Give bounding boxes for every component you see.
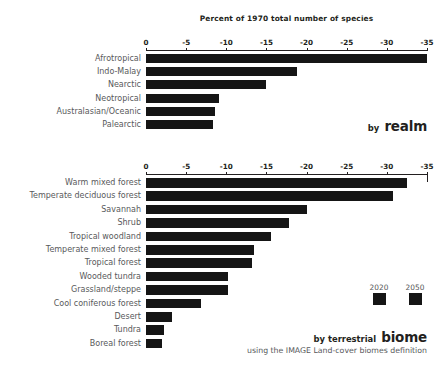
bar-row[interactable]: Neotropical xyxy=(0,92,441,105)
axis-tick-mark xyxy=(186,48,187,51)
bar[interactable] xyxy=(146,325,164,335)
bar-row-label: Desert xyxy=(0,310,141,323)
axis-tick-label: -15 xyxy=(260,162,273,171)
axis-tick-label: -15 xyxy=(260,38,273,47)
bar-row-label: Shrub xyxy=(0,216,141,229)
axis-tick-mark xyxy=(266,172,267,175)
bar[interactable] xyxy=(146,54,427,63)
axis-tick-mark xyxy=(307,172,308,175)
biome-x-axis: 0-5-10-15-20-25-30-35 xyxy=(146,162,427,174)
bar[interactable] xyxy=(146,312,172,322)
realm-x-axis: 0-5-10-15-20-25-30-35 xyxy=(146,38,427,50)
bar-row-label: Palearctic xyxy=(0,118,141,131)
biome-caption-prefix: by terrestrial xyxy=(314,334,377,344)
bar-row[interactable]: Afrotropical xyxy=(0,52,441,65)
axis-tick-label: -20 xyxy=(300,38,313,47)
axis-tick-label: -5 xyxy=(182,162,190,171)
bar[interactable] xyxy=(146,80,266,89)
legend-label: 2020 xyxy=(366,283,392,292)
axis-tick-label: -10 xyxy=(220,38,233,47)
bar-row-label: Temperate deciduous forest xyxy=(0,189,141,202)
axis-tick-label: -20 xyxy=(300,162,313,171)
bar-row-label: Afrotropical xyxy=(0,52,141,65)
axis-tick-label: -35 xyxy=(421,162,434,171)
biome-legend: 20202050 xyxy=(366,283,436,307)
realm-caption: by realm xyxy=(368,116,427,135)
legend-swatch xyxy=(409,293,422,305)
bar[interactable] xyxy=(146,339,162,349)
bar[interactable] xyxy=(146,205,307,215)
bar-row-label: Wooded tundra xyxy=(0,270,141,283)
bar[interactable] xyxy=(146,232,271,242)
axis-tick-label: -25 xyxy=(340,38,353,47)
biome-caption-note: using the IMAGE Land-cover biomes defini… xyxy=(247,346,427,355)
biome-caption: by terrestrial biome xyxy=(314,327,427,346)
bar-row-label: Indo-Malay xyxy=(0,65,141,78)
axis-tick-mark xyxy=(186,172,187,175)
axis-tick-label: -25 xyxy=(340,162,353,171)
bar-row[interactable]: Shrub xyxy=(0,216,441,229)
axis-tick-label: -35 xyxy=(421,38,434,47)
bar-row[interactable]: Savannah xyxy=(0,203,441,216)
bar-row-label: Nearctic xyxy=(0,78,141,91)
bar-row-label: Temperate mixed forest xyxy=(0,243,141,256)
bar[interactable] xyxy=(146,67,297,76)
realm-axis-line xyxy=(146,50,428,51)
species-decline-bar-chart-figure: Percent of 1970 total number of species … xyxy=(0,0,441,373)
axis-tick-mark xyxy=(347,48,348,51)
axis-tick-mark xyxy=(307,48,308,51)
chart-title: Percent of 1970 total number of species xyxy=(146,14,427,23)
realm-caption-main: realm xyxy=(384,118,427,134)
axis-tick-mark xyxy=(387,48,388,51)
biome-axis-line xyxy=(146,174,428,175)
axis-tick-label: -5 xyxy=(182,38,190,47)
bar-row[interactable]: Nearctic xyxy=(0,78,441,91)
biome-caption-main: biome xyxy=(381,329,427,345)
axis-tick-label: 0 xyxy=(143,162,148,171)
bar[interactable] xyxy=(146,258,252,268)
bar-row[interactable]: Desert xyxy=(0,310,441,323)
bar[interactable] xyxy=(146,272,228,282)
bar-row[interactable]: Wooded tundra xyxy=(0,270,441,283)
bar[interactable] xyxy=(146,299,201,309)
legend-swatch xyxy=(373,293,386,305)
axis-tick-mark xyxy=(146,48,147,51)
legend-item[interactable]: 2020 xyxy=(366,283,392,305)
bar[interactable] xyxy=(146,120,213,129)
bar-row-label: Boreal forest xyxy=(0,337,141,350)
bar[interactable] xyxy=(146,107,215,116)
axis-tick-mark xyxy=(347,172,348,175)
bar-row-label: Neotropical xyxy=(0,92,141,105)
bar[interactable] xyxy=(146,285,228,295)
axis-tick-mark xyxy=(266,48,267,51)
realm-panel: Percent of 1970 total number of species … xyxy=(0,0,441,150)
axis-tick-mark xyxy=(427,48,428,51)
bar-row-label: Grassland/steppe xyxy=(0,283,141,296)
bar[interactable] xyxy=(146,94,219,103)
bar-row[interactable]: Temperate deciduous forest xyxy=(0,189,441,202)
bar-row-label: Tundra xyxy=(0,323,141,336)
legend-item[interactable]: 2050 xyxy=(402,283,428,305)
bar[interactable] xyxy=(146,245,254,255)
axis-tick-mark xyxy=(146,172,147,175)
bar-row[interactable]: Tropical forest xyxy=(0,256,441,269)
bar-row-label: Tropical forest xyxy=(0,256,141,269)
axis-tick-mark xyxy=(387,172,388,175)
axis-tick-label: -30 xyxy=(380,38,393,47)
axis-tick-label: 0 xyxy=(143,38,148,47)
bar-row-label: Savannah xyxy=(0,203,141,216)
axis-tick-label: -10 xyxy=(220,162,233,171)
bar-row[interactable]: Warm mixed forest xyxy=(0,176,441,189)
bar-row[interactable]: Temperate mixed forest xyxy=(0,243,441,256)
bar-row-label: Australasian/Oceanic xyxy=(0,105,141,118)
bar[interactable] xyxy=(146,178,407,188)
axis-tick-label: -30 xyxy=(380,162,393,171)
biome-panel: 0-5-10-15-20-25-30-35 Warm mixed forestT… xyxy=(0,150,441,373)
bar[interactable] xyxy=(146,191,393,201)
bar-row-label: Warm mixed forest xyxy=(0,176,141,189)
axis-tick-mark xyxy=(226,48,227,51)
axis-tick-mark xyxy=(226,172,227,175)
bar-row[interactable]: Tropical woodland xyxy=(0,230,441,243)
bar[interactable] xyxy=(146,218,289,228)
bar-row[interactable]: Indo-Malay xyxy=(0,65,441,78)
